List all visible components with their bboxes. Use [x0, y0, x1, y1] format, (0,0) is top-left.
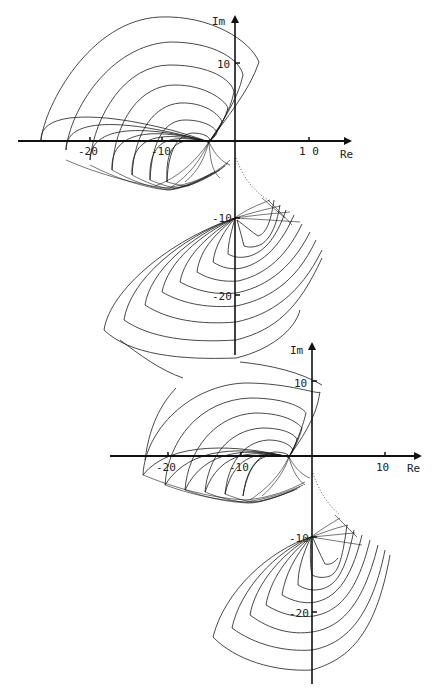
figure-canvas: Im Re -20 -10 1 0 10 -10 -20	[0, 0, 442, 699]
lower-right-cusp-fan	[311, 515, 362, 545]
upper-ytick-label: -20	[212, 290, 232, 303]
upper-im-label: Im	[212, 15, 226, 28]
lower-plot: Im Re -20 -10 10 10 -10 -20	[110, 340, 420, 684]
lower-dotted-link	[312, 470, 340, 515]
upper-ytick-label: 10	[217, 58, 230, 71]
lower-re-label: Re	[407, 462, 420, 475]
upper-xtick-label: -10	[151, 145, 171, 158]
upper-plot: Im Re -20 -10 1 0 10 -10 -20	[18, 15, 353, 358]
lower-ytick-label: -20	[289, 607, 309, 620]
lower-ytick-label: -10	[289, 532, 309, 545]
upper-re-label: Re	[340, 148, 353, 161]
lower-im-label: Im	[290, 344, 304, 357]
upper-xtick-label: -20	[78, 145, 98, 158]
upper-xtick-label: 1 0	[299, 145, 319, 158]
upper-left-contour-family	[41, 17, 259, 182]
lower-xtick-label: 10	[376, 461, 389, 474]
lower-left-contour-family	[143, 383, 320, 496]
upper-dotted-link	[236, 158, 268, 200]
lower-ytick-label: 10	[294, 377, 307, 390]
lower-xtick-label: -10	[229, 461, 249, 474]
upper-right-cusp-fan	[235, 198, 300, 225]
lower-right-contour-family	[213, 525, 390, 670]
lower-xtick-label: -20	[156, 461, 176, 474]
upper-ytick-label: -10	[212, 212, 232, 225]
